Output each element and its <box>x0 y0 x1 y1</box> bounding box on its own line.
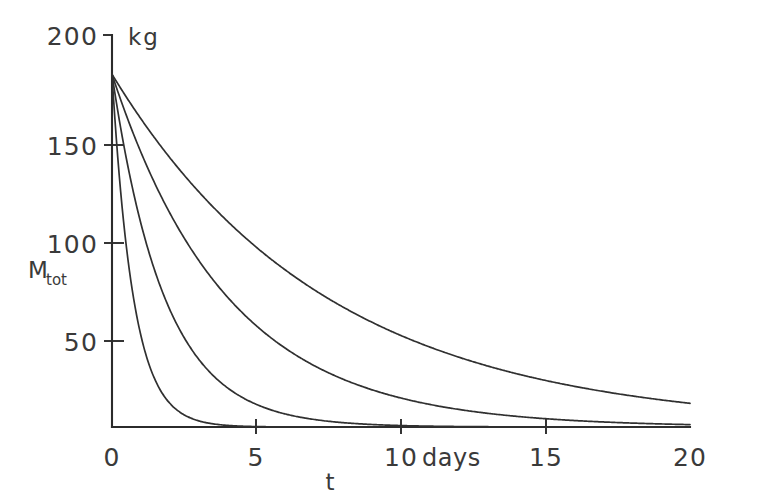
y-axis-title-main: M <box>28 257 48 283</box>
y-tick-marks <box>104 145 124 341</box>
y-tick-labels: 200 150 100 50 <box>47 22 98 357</box>
line-chart: 200 150 100 50 kg M tot 0 5 10 days 15 2… <box>0 0 764 495</box>
data-curve-1-slow <box>112 74 690 403</box>
x-tick-label-20: 20 <box>673 443 707 472</box>
y-tick-label-150: 150 <box>47 132 98 161</box>
x-tick-label-10: 10 <box>384 443 418 472</box>
axes-group <box>103 35 690 427</box>
y-axis-title: M tot <box>28 257 67 289</box>
data-curve-3 <box>112 74 690 427</box>
x-tick-label-5: 5 <box>247 443 264 472</box>
x-axis-title: t <box>325 469 334 495</box>
data-curve-2 <box>112 74 690 424</box>
y-axis-title-subscript: tot <box>46 271 67 289</box>
y-tick-label-100: 100 <box>47 230 98 259</box>
x-tick-label-0: 0 <box>103 443 120 472</box>
y-tick-label-200: 200 <box>47 22 98 51</box>
x-tick-labels: 0 5 10 days 15 20 <box>103 443 707 472</box>
x-tick-label-15: 15 <box>529 443 563 472</box>
data-curves-group <box>112 74 690 427</box>
x-axis-days-label: days <box>422 444 481 472</box>
y-unit-label: kg <box>128 24 160 50</box>
data-curve-4-fast <box>112 74 690 427</box>
chart-figure: 200 150 100 50 kg M tot 0 5 10 days 15 2… <box>0 0 764 495</box>
y-tick-label-50: 50 <box>64 328 98 357</box>
